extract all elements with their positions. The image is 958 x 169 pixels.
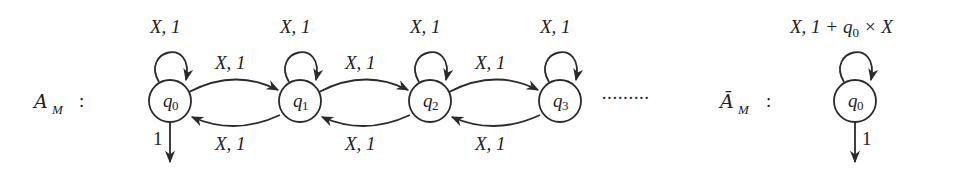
weighted-automata-diagram: A M : q 0 q 1 q 2 q 3 X, 1 X, 1 X, 1 X, … [0,0,958,169]
edge-label-q1-q2: X, 1 [344,52,376,73]
edge-label-q2-q1: X, 1 [344,133,376,154]
self-loop-bar-q0 [840,52,872,82]
state-bar-q0: q 0 [834,80,876,122]
self-loop-label-q3: X, 1 [539,16,571,37]
edge-q2-q3 [449,79,538,92]
automaton-a-m-title: A M : [32,90,84,117]
edge-label-q2-q3: X, 1 [474,52,506,73]
self-loop-label-q1: X, 1 [279,16,311,37]
svg-text:0: 0 [172,98,179,113]
automaton-colon: : [79,90,84,111]
automaton-bar-name: Ā [718,90,734,112]
final-weight-q0: 1 [153,128,163,149]
edge-q0-q1 [189,79,278,92]
automaton-bar-colon: : [766,90,771,111]
state-q2: q 2 [409,80,451,122]
edge-label-q3-q2: X, 1 [474,133,506,154]
self-loop-q0 [155,52,187,82]
self-loop-label-bar-q0: X, 1 + q0 × X [789,16,894,40]
self-loop-label-q2: X, 1 [409,16,441,37]
automaton-bar-name-subscript: M [737,102,750,117]
svg-text:0: 0 [857,98,864,113]
state-q0: q 0 [149,80,191,122]
self-loop-label-q0: X, 1 [149,16,181,37]
svg-text:1: 1 [302,98,309,113]
state-q1: q 1 [279,80,321,122]
continuation-dots: ········· [601,87,649,108]
edge-label-q1-q0: X, 1 [214,133,246,154]
edge-q1-q0 [192,115,280,126]
edge-label-q0-q1: X, 1 [214,52,246,73]
automaton-a-bar-m-title: Ā M : [718,90,771,117]
final-weight-bar-q0: 1 [862,128,872,149]
svg-text:3: 3 [562,98,569,113]
automaton-name-subscript: M [51,102,64,117]
edge-q1-q2 [319,79,408,92]
automaton-name: A [32,90,48,112]
edge-q2-q1 [322,115,410,126]
edge-q3-q2 [452,115,540,126]
state-q3: q 3 [539,80,581,122]
svg-text:2: 2 [432,98,439,113]
self-loop-q2 [415,52,447,82]
self-loop-q3 [545,52,577,82]
self-loop-q1 [285,52,317,82]
